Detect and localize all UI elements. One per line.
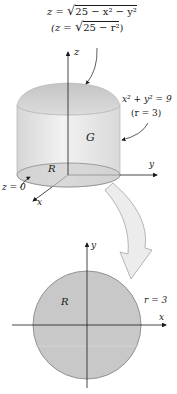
radius-2d-label: r = 3 (144, 296, 167, 305)
dome-leader-arrow (86, 48, 97, 84)
formula-close-paren: ) (119, 22, 123, 33)
formula-polar-z: (z = (51, 22, 75, 33)
region-r-2d-label: R (61, 297, 69, 307)
base-plane-label: z = 0 (2, 183, 26, 192)
y-axis-2d-label: y (91, 241, 96, 250)
x-axis-3d (33, 187, 52, 201)
region-r-3d-label: R (48, 164, 56, 174)
x-axis-3d-label: x (37, 198, 42, 207)
z-axis-label: z (74, 47, 79, 57)
top-formula-line2: (z = √25 − r²) (51, 20, 123, 33)
cylinder-solid (17, 83, 120, 187)
cylinder-radius-label: (r = 3) (131, 109, 161, 118)
cylinder-leader-arrow (122, 123, 148, 140)
projection-arrow (105, 183, 152, 279)
dome-surface (17, 83, 120, 115)
x-axis-2d-label: x (159, 313, 164, 322)
formula-z: z = (47, 6, 67, 17)
y-axis-3d-label: y (149, 160, 154, 169)
formula-radicand: 25 − x² − y² (75, 5, 137, 17)
cylinder-equation-label: x² + y² = 9 (122, 95, 172, 104)
diagram-graphics (0, 0, 177, 394)
top-formula-line1: z = √25 − x² − y² (47, 4, 137, 17)
formula-polar-radicand: 25 − r² (83, 21, 119, 33)
solid-g-label: G (86, 132, 95, 143)
cylinder-region-diagram: z = √25 − x² − y² (z = √25 − r²) z x² + … (0, 0, 177, 394)
